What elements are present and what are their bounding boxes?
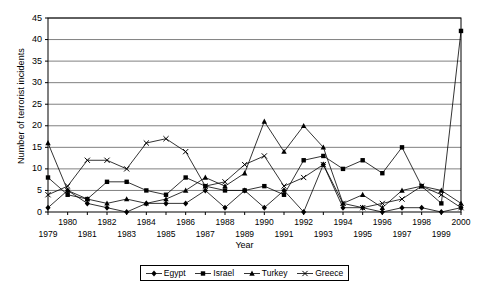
square-marker-icon [400, 145, 404, 149]
x-tick-label: 1988 [208, 218, 242, 227]
triangle-marker-icon [262, 119, 267, 124]
square-marker-icon [195, 269, 211, 278]
y-tick-label: 0 [16, 208, 42, 217]
triangle-marker-icon [124, 196, 129, 201]
square-marker-icon [46, 175, 50, 179]
y-tick-label: 20 [16, 121, 42, 130]
triangle-marker-icon [242, 170, 247, 175]
legend-item-israel: Israel [195, 268, 234, 278]
diamond-marker-icon [380, 209, 385, 215]
diamond-marker-icon [146, 269, 162, 278]
y-tick-label: 10 [16, 164, 42, 173]
diamond-marker-icon [104, 205, 109, 211]
square-marker-icon [183, 175, 187, 179]
diamond-marker-icon [183, 200, 188, 206]
square-marker-icon [301, 158, 305, 162]
y-tick-label: 35 [16, 57, 42, 66]
chart-container: Number of terrorist incidents Year 05101… [0, 0, 489, 295]
x-tick-label: 1983 [110, 230, 144, 239]
x-tick-label: 1980 [51, 218, 85, 227]
square-marker-icon [459, 29, 463, 33]
legend-item-egypt: Egypt [146, 268, 186, 278]
square-marker-icon [360, 158, 364, 162]
cross-marker-icon [439, 192, 444, 197]
plot-area [0, 0, 489, 295]
legend-label: Turkey [262, 268, 288, 278]
plot-frame [48, 18, 461, 212]
x-tick-label: 1997 [385, 230, 419, 239]
triangle-marker-icon [203, 175, 208, 180]
square-marker-icon [124, 180, 128, 184]
x-tick-label: 2000 [444, 218, 478, 227]
x-tick-label: 1994 [326, 218, 360, 227]
y-tick-label: 30 [16, 78, 42, 87]
cross-marker-icon [183, 149, 188, 154]
square-marker-icon [242, 188, 246, 192]
y-tick-label: 45 [16, 14, 42, 23]
triangle-marker-icon [360, 192, 365, 197]
legend-label: Egypt [164, 268, 186, 278]
cross-marker-icon [301, 175, 306, 180]
x-tick-label: 1995 [346, 230, 380, 239]
triangle-marker-icon [45, 140, 50, 145]
y-tick-label: 25 [16, 100, 42, 109]
x-tick-label: 1999 [424, 230, 458, 239]
diamond-marker-icon [419, 205, 424, 211]
legend-label: Greece [315, 268, 343, 278]
chart-legend: EgyptIsraelTurkeyGreece [140, 265, 349, 281]
x-tick-label: 1996 [365, 218, 399, 227]
legend-label: Israel [213, 268, 234, 278]
x-tick-label: 1998 [405, 218, 439, 227]
square-marker-icon [223, 188, 227, 192]
x-tick-label: 1989 [228, 230, 262, 239]
cross-marker-icon [297, 269, 313, 278]
x-tick-label: 1987 [188, 230, 222, 239]
x-tick-label: 1981 [70, 230, 104, 239]
x-tick-label: 1982 [90, 218, 124, 227]
x-tick-label: 1986 [169, 218, 203, 227]
series-line [48, 121, 461, 207]
x-tick-label: 1990 [247, 218, 281, 227]
square-marker-icon [262, 184, 266, 188]
x-tick-label: 1979 [31, 230, 65, 239]
square-marker-icon [144, 188, 148, 192]
x-tick-label: 1992 [287, 218, 321, 227]
cross-marker-icon [262, 153, 267, 158]
series-israel [46, 29, 463, 206]
square-marker-icon [282, 193, 286, 197]
diamond-marker-icon [163, 200, 168, 206]
y-tick-label: 15 [16, 143, 42, 152]
square-marker-icon [380, 171, 384, 175]
square-marker-icon [321, 154, 325, 158]
diamond-marker-icon [439, 209, 444, 215]
cross-marker-icon [242, 162, 247, 167]
square-marker-icon [105, 180, 109, 184]
x-tick-label: 1991 [267, 230, 301, 239]
series-line [48, 139, 461, 208]
square-marker-icon [341, 167, 345, 171]
y-tick-label: 40 [16, 35, 42, 44]
x-tick-label: 1984 [129, 218, 163, 227]
diamond-marker-icon [399, 205, 404, 211]
series-line [48, 31, 461, 203]
triangle-marker-icon [458, 200, 463, 205]
x-tick-label: 1985 [149, 230, 183, 239]
triangle-marker-icon [244, 269, 260, 278]
legend-item-turkey: Turkey [244, 268, 288, 278]
square-marker-icon [65, 193, 69, 197]
legend-item-greece: Greece [297, 268, 343, 278]
diamond-marker-icon [151, 270, 156, 276]
square-marker-icon [439, 201, 443, 205]
x-tick-label: 1993 [306, 230, 340, 239]
y-tick-label: 5 [16, 186, 42, 195]
diamond-marker-icon [85, 200, 90, 206]
square-marker-icon [201, 271, 205, 275]
diamond-marker-icon [124, 209, 129, 215]
series-turkey [45, 119, 463, 210]
